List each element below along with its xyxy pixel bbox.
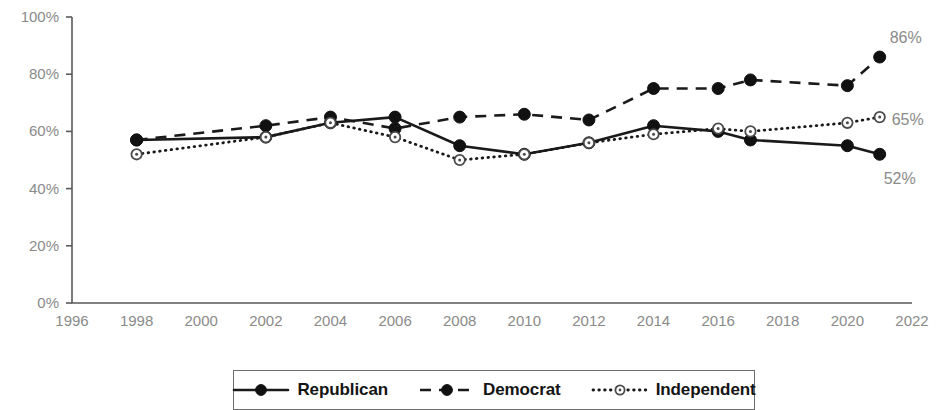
data-point-democrat: [841, 80, 853, 92]
x-tick-label: 2018: [766, 312, 799, 329]
legend-item-label: Democrat: [483, 380, 561, 400]
data-point-democrat: [260, 120, 272, 132]
line-chart-plot: 0%20%40%60%80%100%1996199820002002200420…: [0, 0, 948, 410]
data-point-democrat: [744, 74, 756, 86]
chart-container: 0%20%40%60%80%100%1996199820002002200420…: [0, 0, 948, 410]
data-point-center: [394, 136, 397, 139]
y-tick-label: 100%: [21, 8, 59, 25]
y-tick-label: 80%: [29, 65, 59, 82]
series-republican: [137, 117, 880, 154]
y-tick-label: 20%: [29, 237, 59, 254]
y-tick-label: 0%: [37, 294, 59, 311]
data-label-republican: 52%: [884, 170, 916, 187]
data-point-center: [523, 153, 526, 156]
legend-item-independent[interactable]: Independent: [591, 380, 756, 400]
chart-axes: [72, 17, 912, 303]
data-point-democrat: [518, 108, 530, 120]
data-point-republican: [454, 140, 466, 152]
data-point-democrat: [874, 51, 886, 63]
data-label-independent: 65%: [892, 111, 924, 128]
legend-swatch-solid: [232, 383, 290, 397]
data-point-center: [458, 159, 461, 162]
data-point-republican: [874, 148, 886, 160]
legend-item-democrat[interactable]: Democrat: [418, 380, 561, 400]
legend-swatch-dashed: [418, 383, 476, 397]
markers-democrat: [131, 51, 886, 146]
legend-item-label: Republican: [297, 380, 388, 400]
x-tick-label: 2012: [572, 312, 605, 329]
data-point-democrat: [583, 114, 595, 126]
data-point-center: [135, 153, 138, 156]
x-tick-label: 2006: [378, 312, 411, 329]
series-democrat: [137, 57, 880, 140]
data-point-center: [264, 136, 267, 139]
data-point-center: [846, 121, 849, 124]
data-point-democrat: [712, 83, 724, 95]
x-tick-label: 2008: [443, 312, 476, 329]
data-point-democrat: [648, 83, 660, 95]
x-tick-label: 2002: [249, 312, 282, 329]
data-point-center: [878, 116, 881, 119]
series-line-republican: [137, 117, 880, 154]
x-tick-label: 2022: [895, 312, 928, 329]
data-labels: 86%65%52%: [884, 29, 924, 187]
data-point-center: [652, 133, 655, 136]
legend-swatch-dotted: [591, 383, 649, 397]
legend-item-republican[interactable]: Republican: [232, 380, 388, 400]
y-axis-ticks: 0%20%40%60%80%100%: [21, 8, 72, 311]
x-tick-label: 2016: [701, 312, 734, 329]
x-axis-ticks: 1996199820002002200420062008201020122014…: [55, 312, 928, 329]
axis-lines: [72, 17, 912, 303]
chart-legend: RepublicanDemocratIndependent: [233, 370, 755, 410]
x-tick-label: 2010: [508, 312, 541, 329]
data-point-center: [717, 127, 720, 130]
data-point-center: [749, 130, 752, 133]
y-tick-label: 60%: [29, 122, 59, 139]
x-tick-label: 2004: [314, 312, 347, 329]
x-tick-label: 2000: [185, 312, 218, 329]
x-tick-label: 1998: [120, 312, 153, 329]
legend-item-label: Independent: [656, 380, 756, 400]
x-tick-label: 2020: [831, 312, 864, 329]
data-point-democrat: [454, 111, 466, 123]
data-point-democrat: [131, 134, 143, 146]
x-tick-label: 2014: [637, 312, 670, 329]
data-point-republican: [841, 140, 853, 152]
x-tick-label: 1996: [55, 312, 88, 329]
y-tick-label: 40%: [29, 180, 59, 197]
data-point-center: [329, 121, 332, 124]
data-label-democrat: 86%: [890, 29, 922, 46]
data-point-republican: [389, 111, 401, 123]
series-line-democrat: [137, 57, 880, 140]
data-point-center: [587, 141, 590, 144]
